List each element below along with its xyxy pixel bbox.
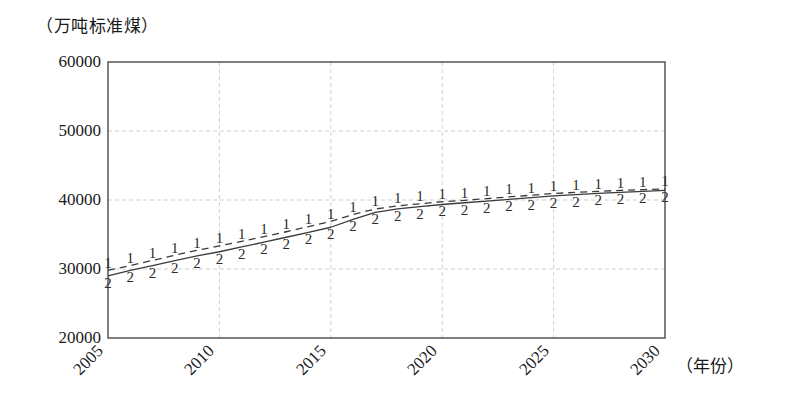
x-tick-label: 2010 <box>181 342 217 378</box>
x-tick-label: 2020 <box>404 342 440 378</box>
x-tick-label: 2025 <box>516 342 552 378</box>
x-axis-title: （年份） <box>676 352 744 377</box>
x-tick-label: 2030 <box>627 342 663 378</box>
x-axis-tick-labels: 200520102015202020252030 <box>0 0 785 412</box>
chart-container: （万吨标准煤） 2000030000400005000060000 111111… <box>0 0 785 412</box>
x-tick-label: 2015 <box>293 342 329 378</box>
x-tick-label: 2005 <box>70 342 106 378</box>
